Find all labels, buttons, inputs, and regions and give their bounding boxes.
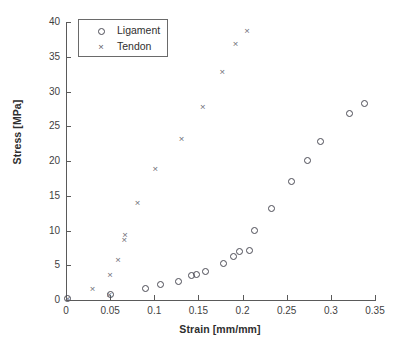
plot-area	[66, 22, 375, 300]
circle-marker-icon	[288, 178, 295, 185]
x-tick-label: 0.35	[355, 305, 395, 316]
legend-item-ligament: Ligament	[79, 23, 169, 38]
y-tick-label: 40	[36, 17, 60, 27]
x-tick-label: 0.05	[90, 305, 130, 316]
x-tick-label: 0.2	[223, 305, 263, 316]
y-tick-label: 15	[36, 191, 60, 201]
x-tick-label: 0.25	[267, 305, 307, 316]
circle-marker-icon	[157, 281, 164, 288]
x-tick	[375, 295, 376, 301]
x-tick-label: 0.15	[178, 305, 218, 316]
y-axis-title: Stress [MPa]	[11, 82, 23, 182]
cross-marker-icon: ×	[178, 135, 186, 143]
legend: Ligament × Tendon	[78, 19, 168, 57]
legend-label-tendon: Tendon	[117, 39, 151, 54]
circle-marker-icon	[220, 260, 227, 267]
cross-marker-icon: ×	[243, 27, 251, 35]
circle-marker-icon	[175, 278, 182, 285]
cross-marker-icon: ×	[106, 271, 114, 279]
x-axis-line	[66, 300, 376, 301]
y-tick-label: 20	[36, 156, 60, 166]
circle-marker-icon	[95, 23, 107, 38]
y-tick-label: 10	[36, 226, 60, 236]
circle-marker-icon	[317, 138, 324, 145]
cross-marker-icon: ×	[105, 291, 113, 299]
cross-marker-icon: ×	[121, 231, 129, 239]
cross-marker-icon: ×	[88, 285, 96, 293]
cross-marker-icon: ×	[218, 68, 226, 76]
circle-marker-icon	[361, 100, 368, 107]
cross-marker-icon: ×	[199, 103, 207, 111]
y-tick-label: 5	[36, 260, 60, 270]
y-tick-label: 30	[36, 87, 60, 97]
cross-marker-icon: ×	[95, 39, 107, 54]
circle-marker-icon	[236, 248, 243, 255]
legend-item-tendon: × Tendon	[79, 39, 169, 54]
cross-marker-icon: ×	[151, 165, 159, 173]
cross-marker-icon: ×	[134, 199, 142, 207]
cross-marker-icon: ×	[114, 256, 122, 264]
x-tick-label: 0	[46, 305, 86, 316]
cross-marker-icon: ×	[232, 40, 240, 48]
x-axis-title: Strain [mm/mm]	[140, 323, 300, 335]
figure-container: 0510152025303540 00.050.10.150.20.250.30…	[0, 0, 399, 356]
cross-marker-icon: ×	[64, 295, 72, 303]
circle-marker-icon	[202, 268, 209, 275]
legend-label-ligament: Ligament	[117, 23, 160, 38]
x-tick-label: 0.1	[134, 305, 174, 316]
y-tick-label: 25	[36, 121, 60, 131]
y-tick-label: 35	[36, 52, 60, 62]
circle-marker-icon	[251, 227, 258, 234]
x-tick-label: 0.3	[311, 305, 351, 316]
y-tick-label: 0	[36, 295, 60, 305]
